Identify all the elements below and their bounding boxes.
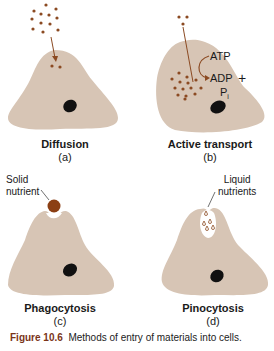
- letter-a: (a): [10, 151, 120, 163]
- panel-diffusion: [8, 3, 118, 129]
- cell-phagocytosis: [8, 211, 114, 295]
- annotation-line: Solid: [6, 174, 39, 186]
- annotation-solid-nutrient: Solid nutrient: [6, 174, 39, 198]
- pi-subscript: i: [227, 93, 229, 100]
- atp-label: ATP: [210, 50, 231, 62]
- annotation-liquid-nutrients: Liquid nutrients: [218, 174, 256, 198]
- panel-phagocytosis: [8, 190, 114, 295]
- adp-label: ADP: [210, 72, 233, 84]
- letter-d: (d): [158, 315, 268, 327]
- figure-caption: Figure 10.6 Methods of entry of material…: [10, 332, 242, 343]
- plus-label: +: [238, 70, 246, 86]
- caption-text: Methods of entry of materials into cells…: [68, 332, 241, 343]
- figure-number: Figure 10.6: [10, 332, 63, 343]
- pointer-line: [41, 190, 49, 200]
- letter-b: (b): [150, 151, 270, 163]
- annotation-line: nutrient: [6, 186, 39, 198]
- annotation-line: Liquid: [218, 174, 256, 186]
- cell-diffusion: [8, 50, 118, 130]
- title-diffusion: Diffusion: [10, 138, 120, 150]
- pi-label: Pi: [220, 86, 229, 100]
- title-pinocytosis: Pinocytosis: [158, 302, 268, 314]
- solid-nutrient-icon: [48, 200, 61, 213]
- letter-c: (c): [5, 315, 115, 327]
- title-active-transport: Active transport: [150, 138, 270, 150]
- panel-pinocytosis: [162, 192, 268, 295]
- title-phagocytosis: Phagocytosis: [5, 302, 115, 314]
- pointer-line: [208, 192, 215, 207]
- annotation-line: nutrients: [218, 186, 256, 198]
